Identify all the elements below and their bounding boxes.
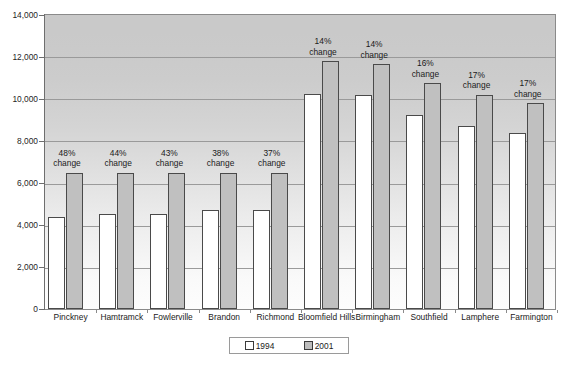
change-word: change <box>104 158 131 168</box>
change-percent: 14% <box>315 36 332 46</box>
change-word: change <box>207 158 234 168</box>
bar-group: 14%change <box>301 15 352 309</box>
change-word: change <box>53 158 80 168</box>
bar-group: 38%change <box>199 15 250 309</box>
legend-item-2001: 2001 <box>304 341 334 351</box>
y-axis-tick-label: 0 <box>0 304 38 314</box>
y-axis-tick-label: 6,000 <box>0 178 38 188</box>
y-axis-tick-label: 4,000 <box>0 220 38 230</box>
bar-1994-farmington <box>509 133 526 309</box>
change-word: change <box>156 158 183 168</box>
change-annotation: 38%change <box>198 148 244 169</box>
page-footer-artifact <box>0 360 562 366</box>
bar-1994-pinckney <box>48 217 65 309</box>
change-annotation: 17%change <box>505 78 551 99</box>
chart-legend: 1994 2001 <box>229 337 349 354</box>
change-percent: 44% <box>110 148 127 158</box>
legend-label-2001: 2001 <box>315 341 334 351</box>
y-axis-tick-label: 10,000 <box>0 94 38 104</box>
bar-groups: 48%change44%change43%change38%change37%c… <box>45 15 555 309</box>
bar-1994-bloomfield-hills <box>304 94 321 309</box>
change-percent: 17% <box>519 78 536 88</box>
change-percent: 43% <box>161 148 178 158</box>
y-axis-tick <box>39 309 44 310</box>
y-axis-tick-label: 2,000 <box>0 262 38 272</box>
change-percent: 37% <box>263 148 280 158</box>
change-word: change <box>360 50 387 60</box>
bar-2001-fowlerville <box>168 173 185 310</box>
y-axis-tick <box>39 267 44 268</box>
bar-2001-southfield <box>424 83 441 309</box>
legend-item-1994: 1994 <box>245 341 275 351</box>
bar-2001-pinckney <box>66 173 83 310</box>
bar-1994-brandon <box>202 210 219 309</box>
y-axis-tick <box>39 15 44 16</box>
legend-swatch-2001-icon <box>304 341 313 350</box>
bar-1994-richmond <box>253 210 270 309</box>
bar-1994-birmingham <box>355 95 372 309</box>
change-percent: 14% <box>366 39 383 49</box>
y-axis-tick <box>39 99 44 100</box>
legend-label-1994: 1994 <box>256 341 275 351</box>
y-axis-tick-label: 14,000 <box>0 10 38 20</box>
change-word: change <box>514 89 541 99</box>
bar-2001-brandon <box>220 173 237 310</box>
bar-1994-southfield <box>406 115 423 309</box>
y-axis-tick <box>39 57 44 58</box>
bar-group: 43%change <box>147 15 198 309</box>
change-percent: 17% <box>468 70 485 80</box>
bar-1994-lamphere <box>458 126 475 309</box>
y-axis-tick <box>39 183 44 184</box>
bar-1994-hamtramck <box>99 214 116 309</box>
bar-group: 44%change <box>96 15 147 309</box>
bar-1994-fowlerville <box>150 214 167 309</box>
change-percent: 16% <box>417 58 434 68</box>
change-word: change <box>309 47 336 57</box>
bar-group: 37%change <box>250 15 301 309</box>
category-label-farmington: Farmington <box>500 312 562 323</box>
change-annotation: 43%change <box>146 148 192 169</box>
bar-2001-richmond <box>271 173 288 310</box>
change-annotation: 44%change <box>95 148 141 169</box>
change-annotation: 16%change <box>402 58 448 79</box>
x-axis-tick <box>557 310 558 313</box>
y-axis-tick-label: 12,000 <box>0 52 38 62</box>
bar-2001-hamtramck <box>117 173 134 310</box>
y-axis-tick <box>39 225 44 226</box>
bar-chart: 14,00012,00010,0008,0006,0004,0002,0000 … <box>0 0 562 366</box>
category-axis-labels: PinckneyHamtramckFowlervilleBrandonRichm… <box>45 312 555 340</box>
bar-group: 16%change <box>403 15 454 309</box>
change-annotation: 48%change <box>44 148 90 169</box>
change-annotation: 17%change <box>454 70 500 91</box>
change-word: change <box>412 69 439 79</box>
y-axis-tick <box>39 141 44 142</box>
change-annotation: 14%change <box>300 36 346 57</box>
change-word: change <box>258 158 285 168</box>
change-word: change <box>463 80 490 90</box>
bar-group: 17%change <box>506 15 557 309</box>
bar-group: 48%change <box>45 15 96 309</box>
change-annotation: 37%change <box>249 148 295 169</box>
bar-2001-lamphere <box>476 95 493 309</box>
change-percent: 48% <box>59 148 76 158</box>
change-annotation: 14%change <box>351 39 397 60</box>
y-axis-tick-label: 8,000 <box>0 136 38 146</box>
change-percent: 38% <box>212 148 229 158</box>
bar-2001-birmingham <box>373 64 390 309</box>
bar-group: 14%change <box>352 15 403 309</box>
legend-swatch-1994-icon <box>245 341 254 350</box>
bar-group: 17%change <box>455 15 506 309</box>
bar-2001-farmington <box>527 103 544 309</box>
bar-2001-bloomfield-hills <box>322 61 339 309</box>
